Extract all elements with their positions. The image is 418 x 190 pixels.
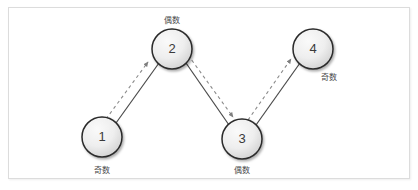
node-3[interactable]: 3 偶数 — [222, 119, 262, 175]
edge-2-3 — [186, 63, 229, 125]
diagram-canvas: 1 奇数 2 偶数 3 偶数 4 奇数 — [0, 0, 418, 190]
edge-group — [116, 63, 300, 125]
node-2-number: 2 — [168, 41, 175, 56]
node-2[interactable]: 2 偶数 — [152, 15, 192, 70]
node-4-label: 奇数 — [321, 72, 337, 82]
node-1-label: 奇数 — [94, 165, 110, 175]
node-4-number: 4 — [309, 41, 316, 56]
node-2-label: 偶数 — [164, 15, 180, 25]
node-1[interactable]: 1 奇数 — [82, 117, 122, 175]
node-1-number: 1 — [98, 129, 105, 144]
arrow-1-2-dashed — [106, 62, 148, 119]
arrow-group — [106, 55, 291, 120]
arrow-3-4-dashed — [248, 59, 291, 120]
edge-1-2 — [116, 63, 159, 123]
node-3-number: 3 — [238, 131, 245, 146]
node-4[interactable]: 4 奇数 — [293, 29, 337, 82]
arrow-2-3-dashed — [188, 55, 233, 117]
node-3-label: 偶数 — [234, 165, 250, 175]
edge-3-4 — [256, 63, 300, 125]
graph-svg: 1 奇数 2 偶数 3 偶数 4 奇数 — [0, 0, 418, 190]
